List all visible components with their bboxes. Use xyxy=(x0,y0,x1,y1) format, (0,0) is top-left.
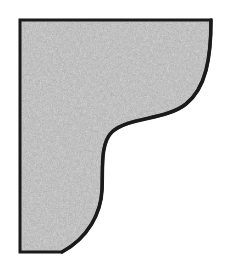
ogee-bracket-drawing xyxy=(0,0,230,266)
figure-canvas: Shaded quarter section with concave ogee… xyxy=(0,0,230,266)
